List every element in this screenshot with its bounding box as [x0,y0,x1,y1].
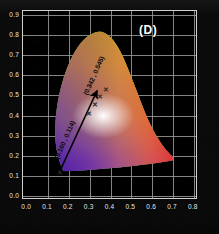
y-axis-tick-label: 0.6 [1,71,19,78]
x-axis-tick-label: 0.0 [21,203,31,210]
y-axis-tick-label: 0.5 [1,91,19,98]
y-axis-tick-label: 0.2 [1,151,19,158]
marker-x-mid-2: ✕ [92,101,98,109]
x-axis-tick-label: 0.6 [146,203,156,210]
y-axis-tick-label: 0.4 [1,111,19,118]
x-axis-tick-label: 0.7 [167,203,177,210]
y-axis-tick-label: 0.9 [1,11,19,18]
marker-x-end: ✕ [103,86,109,94]
chromaticity-plot: ✕ ✕ ✕ ✕ ✕ (0.160 , 0.114) (0.342 , 0.545… [22,10,197,199]
y-axis-tick-label: 0.3 [1,131,19,138]
marker-x-start: ✕ [57,169,63,177]
marker-x-mid-1: ✕ [86,110,92,118]
y-axis-tick-label: 0.7 [1,51,19,58]
x-axis-tick-label: 0.5 [126,203,136,210]
y-axis-tick-label: 0.8 [1,31,19,38]
x-axis-tick-label: 0.3 [84,203,94,210]
y-axis-tick-label: 0.0 [1,191,19,198]
marker-x-mid-3: ✕ [97,93,103,101]
screenshot-root: ✕ ✕ ✕ ✕ ✕ (0.160 , 0.114) (0.342 , 0.545… [0,0,219,234]
panel-letter: (D) [139,23,157,37]
y-axis-tick-label: 0.1 [1,171,19,178]
x-axis-tick-label: 0.4 [105,203,115,210]
x-axis-tick-label: 0.1 [42,203,52,210]
x-axis-tick-label: 0.2 [63,203,73,210]
x-axis-tick-label: 0.8 [188,203,198,210]
annotation-overlay [23,11,196,198]
